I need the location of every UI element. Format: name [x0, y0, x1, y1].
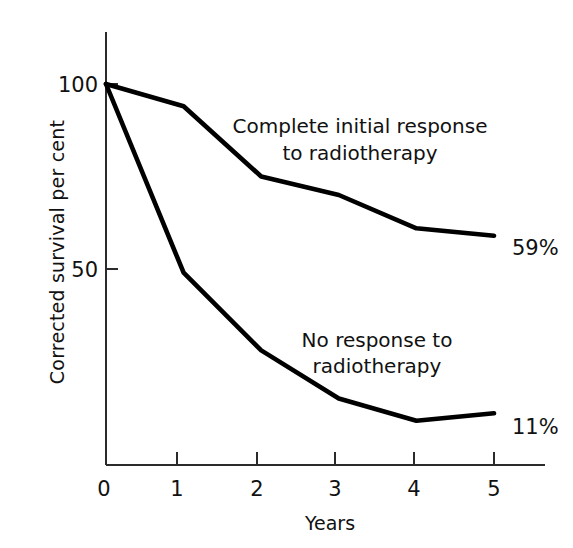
annotation-no-response-line2: radiotherapy	[313, 354, 442, 378]
x-tick-label-3: 3	[328, 477, 341, 501]
x-tick-label-0: 0	[97, 477, 110, 501]
y-tick-label-50: 50	[71, 258, 98, 282]
x-tick-label-4: 4	[407, 477, 420, 501]
chart-canvas: 100 50 0 1 2 3 4 5 Years Complete initia…	[0, 0, 573, 548]
annotation-no-response-line1: No response to	[302, 328, 453, 352]
annotation-complete-response-line1: Complete initial response	[233, 114, 488, 138]
survival-curve-chart: 100 50 0 1 2 3 4 5 Years Complete initia…	[0, 0, 573, 548]
endpoint-label-no-response: 11%	[512, 415, 559, 439]
y-tick-label-100: 100	[58, 73, 98, 97]
x-tick-label-5: 5	[487, 477, 500, 501]
x-tick-label-2: 2	[250, 477, 263, 501]
x-axis-title: Years	[304, 512, 355, 534]
endpoint-label-complete-response: 59%	[512, 236, 559, 260]
annotation-complete-response-line2: to radiotherapy	[282, 141, 437, 165]
y-axis-title: Corrected survival per cent	[46, 102, 68, 402]
x-tick-label-1: 1	[170, 477, 183, 501]
